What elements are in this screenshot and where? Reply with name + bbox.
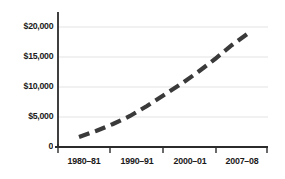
gridlines bbox=[58, 27, 268, 117]
x-axis-tick-label-1990-91: 1990–91 bbox=[113, 155, 161, 166]
axes bbox=[55, 12, 268, 153]
trend-line bbox=[79, 32, 250, 137]
x-axis-tick-label-2007-08: 2007–08 bbox=[218, 155, 266, 166]
chart-container: $20,000 $15,000 $10,000 $5,000 0 1980–81… bbox=[0, 0, 285, 179]
x-axis-tick-label-1980-81: 1980–81 bbox=[60, 155, 108, 166]
data-series-line bbox=[79, 32, 250, 137]
plot-area bbox=[0, 0, 285, 179]
x-axis-tick-label-2000-01: 2000–01 bbox=[166, 155, 214, 166]
